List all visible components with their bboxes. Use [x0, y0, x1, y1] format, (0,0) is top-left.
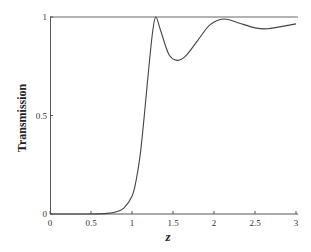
y-axis-label: Transmission: [15, 83, 29, 152]
x-tick-label: 1: [130, 218, 135, 228]
x-tick-label: 0: [48, 218, 53, 228]
y-tick-label: 0.5: [36, 111, 48, 121]
x-tick-label: 3: [294, 218, 299, 228]
plot-area: [50, 17, 298, 214]
x-axis-label: z: [164, 229, 171, 244]
x-tick-label: 0.5: [85, 218, 97, 228]
x-tick-label: 1.5: [167, 218, 179, 228]
y-tick-label: 1: [43, 12, 48, 22]
y-tick-label: 0: [43, 209, 48, 219]
x-tick-label: 2: [212, 218, 217, 228]
transmission-chart: 00.511.522.53 00.51 z Transmission: [0, 0, 311, 252]
x-tick-label: 2.5: [249, 218, 261, 228]
series-line: [50, 17, 296, 214]
